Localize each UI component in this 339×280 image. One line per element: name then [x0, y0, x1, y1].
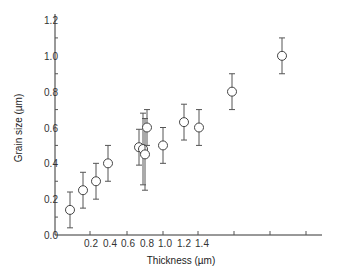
x-tick-label: 0.2 [84, 238, 98, 249]
y-tick-label: 0.0 [44, 230, 58, 241]
data-point [180, 104, 189, 140]
y-tick-label: 1.0 [44, 51, 58, 62]
data-point [228, 74, 237, 110]
y-tick-label: 1.2 [44, 15, 58, 26]
y-ticks: 0.00.20.40.60.81.01.2 [44, 15, 58, 241]
y-tick-label: 0.4 [44, 158, 58, 169]
data-point [278, 38, 287, 74]
x-tick-label: 1.0 [158, 238, 172, 249]
data-point [143, 110, 152, 146]
data-point [195, 110, 204, 146]
open-circle-marker [159, 141, 168, 150]
y-axis-label: Grain size (µm) [13, 94, 24, 163]
x-tick-label: 0.6 [121, 238, 135, 249]
open-circle-marker [66, 205, 75, 214]
open-circle-marker [79, 186, 88, 195]
x-ticks: 0.20.40.60.81.01.21.4 [84, 231, 306, 249]
open-circle-marker [104, 159, 113, 168]
x-tick-label: 1.4 [195, 238, 209, 249]
data-point [66, 192, 75, 228]
data-point [79, 172, 88, 208]
open-circle-marker [92, 177, 101, 186]
data-point [92, 163, 101, 199]
x-tick-label: 0.4 [103, 238, 117, 249]
open-circle-marker [180, 118, 189, 127]
open-circle-marker [143, 123, 152, 132]
data-point [104, 145, 113, 181]
data-points [66, 38, 287, 228]
open-circle-marker [141, 150, 150, 159]
open-circle-marker [278, 51, 287, 60]
x-axis-label: Thickness (µm) [147, 255, 216, 266]
x-tick-label: 0.8 [140, 238, 154, 249]
open-circle-marker [228, 87, 237, 96]
y-tick-label: 0.6 [44, 123, 58, 134]
grain-size-chart: 0.00.20.40.60.81.01.2 0.20.40.60.81.01.2… [0, 0, 339, 280]
data-point [159, 128, 168, 164]
x-tick-label: 1.2 [177, 238, 191, 249]
y-tick-label: 0.8 [44, 87, 58, 98]
open-circle-marker [195, 123, 204, 132]
y-tick-label: 0.2 [44, 194, 58, 205]
